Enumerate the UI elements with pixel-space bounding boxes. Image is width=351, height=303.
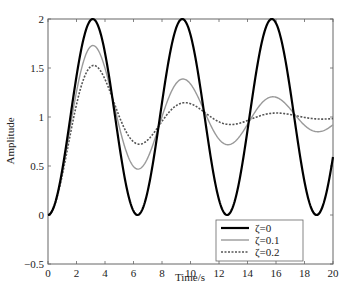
y-axis-label: Amplitude xyxy=(4,117,16,164)
x-tick-label: 12 xyxy=(214,267,225,279)
chart: 02468101214161820−0.500.511.52 Time/s Am… xyxy=(0,0,351,303)
y-tick-label: 2 xyxy=(39,13,45,25)
x-tick-label: 18 xyxy=(299,267,311,279)
y-tick-label: −0.5 xyxy=(24,258,44,270)
y-tick-label: 0.5 xyxy=(30,160,44,172)
x-tick-label: 6 xyxy=(131,267,137,279)
x-tick-label: 16 xyxy=(271,267,283,279)
legend: ζ=0 ζ=0.1 ζ=0.2 xyxy=(216,220,303,261)
legend-label-zeta02: ζ=0.2 xyxy=(255,246,280,259)
x-tick-label: 2 xyxy=(74,267,80,279)
x-tick-label: 8 xyxy=(159,267,165,279)
x-tick-label: 20 xyxy=(328,267,340,279)
y-tick-label: 1.5 xyxy=(30,62,44,74)
x-tick-label: 0 xyxy=(45,267,51,279)
x-tick-label: 4 xyxy=(102,267,108,279)
y-tick-label: 0 xyxy=(39,209,45,221)
x-axis-label: Time/s xyxy=(175,271,205,283)
y-tick-label: 1 xyxy=(39,111,45,123)
x-tick-label: 14 xyxy=(242,267,254,279)
